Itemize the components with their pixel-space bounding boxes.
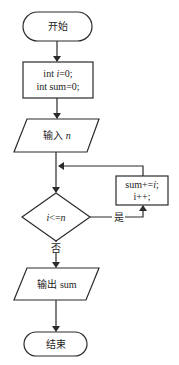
input-label: 输入 n xyxy=(43,129,71,141)
no-label: 否 xyxy=(51,243,61,254)
loop-body-line-1: sum+=i; xyxy=(125,179,159,190)
init-line-2: int sum=0; xyxy=(36,81,79,92)
loop-body-box: sum+=i; i++; xyxy=(116,176,168,205)
output-label: 输出 sum xyxy=(37,278,76,290)
flowchart-diagram: 开始 int i=0; int sum=0; 输入 n i<=n 是 sum+=… xyxy=(0,0,179,365)
input-parallelogram: 输入 n xyxy=(14,119,99,152)
init-process-box: int i=0; int sum=0; xyxy=(23,62,93,98)
loop-body-line-2: i++; xyxy=(134,191,151,202)
end-terminal: 结束 xyxy=(24,332,87,356)
start-label: 开始 xyxy=(48,20,68,32)
condition-label: i<=n xyxy=(46,212,65,223)
arrow-loop-back xyxy=(59,166,143,176)
yes-label: 是 xyxy=(114,212,124,223)
output-parallelogram: 输出 sum xyxy=(14,268,99,300)
start-terminal: 开始 xyxy=(23,12,92,41)
condition-diamond: i<=n xyxy=(22,193,90,241)
end-label: 结束 xyxy=(46,338,66,350)
init-line-1: int i=0; xyxy=(43,68,72,79)
